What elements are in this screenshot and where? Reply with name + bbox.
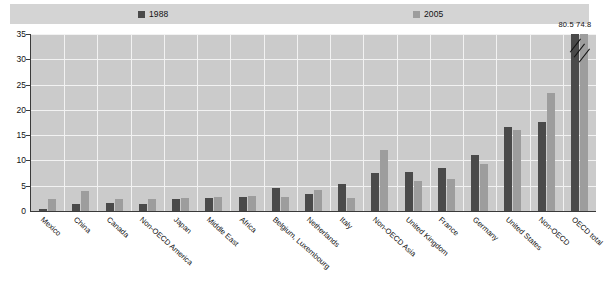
x-axis-label: France — [437, 215, 461, 238]
x-axis-label: Canada — [105, 215, 131, 239]
x-axis-label: Africa — [238, 215, 258, 235]
x-axis-label: Middle East — [205, 215, 241, 248]
x-axis-label: China — [72, 215, 93, 235]
x-axis-label: Mexico — [39, 215, 63, 238]
x-axis-label: Italy — [338, 215, 354, 231]
x-axis-label: OECD total — [570, 215, 605, 247]
x-axis-label: Belgium, Luxembourg — [271, 215, 332, 271]
axis-break-values: 80.5 74.8 — [558, 20, 591, 29]
x-axis-label: Germany — [471, 215, 500, 243]
break-value-2005: 74.8 — [576, 20, 591, 29]
break-value-1988: 80.5 — [558, 20, 573, 29]
x-axis-label: Japan — [172, 215, 193, 236]
x-axis-label: Non-OECD — [537, 215, 572, 247]
